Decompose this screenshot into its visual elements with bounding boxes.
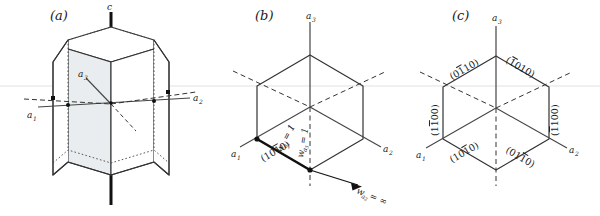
weiss-a2-value-b: = ∞: [368, 191, 388, 207]
a3-axis-label-a: a: [78, 69, 83, 79]
face-label-right-c: (1100): [549, 104, 560, 136]
a2-axis-label-c: a: [569, 145, 574, 155]
face-label-top-right-c: (1010): [504, 54, 537, 79]
svg-text:(0110): (0110): [448, 56, 481, 81]
face-left-pre: (1: [429, 126, 440, 136]
face-top-right-post: 010): [512, 59, 536, 79]
svg-text:(1100): (1100): [549, 104, 560, 136]
trace-endpoint-a1-b: [254, 136, 259, 141]
axis-tick-right: [166, 90, 170, 94]
a1-axis-subscript-a: 1: [33, 115, 37, 122]
a3-axis-subscript-b: 3: [312, 16, 316, 23]
a1-axis-label-c: a: [416, 150, 421, 160]
a2-axis-label-a: a: [193, 93, 198, 103]
a3-axis-subscript-c: 3: [498, 18, 502, 25]
a1-axis-subscript-c: 1: [422, 155, 426, 162]
a2-axis-subscript-a: 2: [198, 98, 203, 105]
c-axis-label: c: [107, 2, 112, 12]
svg-text:(0110): (0110): [504, 144, 537, 169]
face-label-top-left-c: (0110): [448, 56, 481, 81]
a3-axis-label-c: a: [492, 13, 497, 23]
weiss-a3-value-b: = 1: [298, 127, 311, 145]
prism-left-silhouette: [53, 40, 68, 175]
weiss-a2-b: w a2 = ∞: [354, 186, 388, 210]
face-label-left-c: (1100): [429, 104, 440, 136]
a2-axis-subscript-b: 2: [388, 149, 393, 156]
panel-a-letter: (a): [50, 8, 68, 23]
axis-node-center: [109, 101, 113, 105]
face-label-bottom-left-c: (1010): [448, 139, 481, 164]
svg-text:(1100): (1100): [429, 104, 440, 136]
diagonal-dashed-upper-right-b: [310, 71, 387, 107]
axis-node-left: [66, 103, 70, 107]
diagonal-dashed-upper-right-c: [496, 72, 572, 108]
weiss-a3-subscript-b: a3: [301, 145, 310, 153]
svg-text:(1010): (1010): [504, 54, 537, 79]
face-top-left-post: 10): [461, 56, 480, 73]
axis-node-right: [152, 99, 156, 103]
axis-tick-left: [51, 96, 55, 100]
face-left-post: 00): [429, 104, 440, 120]
a3-axis-subscript-a: 3: [84, 74, 88, 81]
panel-c: (c) a 3 a 1 a 2 (0110) (1010): [416, 8, 579, 186]
face-label-bottom-right-c: (0110): [504, 144, 537, 169]
crystallography-figure: (a) c a 2 a 1: [0, 0, 600, 216]
a2-axis-subscript-c: 2: [574, 150, 579, 157]
a2-axis-label-b: a: [383, 144, 388, 154]
a2-axis-line-b: [310, 107, 381, 147]
prism-front-right-face: [111, 49, 154, 175]
diagonal-dashed-upper-left-b: [233, 71, 310, 107]
prism-right-silhouette: [154, 40, 169, 175]
a1-axis-label-b: a: [231, 149, 236, 159]
a1-axis-label-a: a: [27, 110, 32, 120]
a3-axis-label-b: a: [306, 11, 311, 21]
panel-b: (b) a 3 a 1 a 2 (1010): [231, 8, 393, 209]
face-right-post: 100): [549, 104, 560, 126]
panel-a: (a) c a 2 a 1: [24, 2, 203, 205]
weiss-a2-subscript-b: a2: [360, 192, 369, 202]
panel-c-letter: (c): [452, 8, 469, 23]
a1-axis-subscript-b: 1: [237, 154, 241, 161]
svg-text:(1010): (1010): [448, 139, 481, 164]
panel-b-letter: (b): [255, 8, 273, 23]
weiss-a1-value-b: = 1: [281, 123, 297, 142]
w-a2-arrow-line-b: [310, 170, 358, 185]
